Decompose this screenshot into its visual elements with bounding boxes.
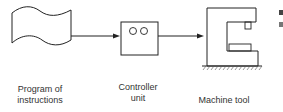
label-controller-line1: Controller (108, 82, 168, 93)
machine-table-icon (229, 44, 251, 51)
arrowhead-icon (197, 34, 204, 39)
label-controller: Controller unit (108, 82, 168, 104)
label-machine-tool: Machine tool (188, 95, 260, 106)
label-program-line1: Program of (8, 84, 72, 95)
controller-dial-icon (130, 28, 137, 35)
label-controller-line2: unit (108, 93, 168, 104)
arrowhead-icon (113, 34, 120, 39)
program-tape-icon (12, 7, 71, 45)
clipped-caption-fragment (279, 22, 283, 27)
ground-hatch-icon (203, 66, 262, 70)
machine-frame-icon (207, 8, 258, 66)
label-program-line2: instructions (8, 95, 72, 106)
controller-dial-icon (141, 28, 148, 35)
clipped-caption-fragment (279, 10, 283, 15)
label-program: Program of instructions (8, 84, 72, 106)
machine-spindle-icon (245, 22, 251, 29)
controller-box (121, 22, 158, 55)
